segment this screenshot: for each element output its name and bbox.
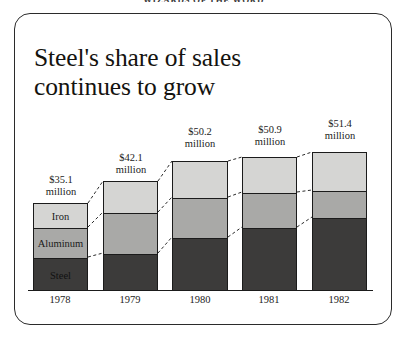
value-amount-1982: $51.4 (328, 118, 352, 129)
x-axis-label-1978: 1978 (32, 294, 88, 305)
bar-1981-segment-iron (242, 158, 297, 193)
bar-1982-segment-steel (312, 218, 367, 291)
bar-1978-segment-aluminum: Aluminum (33, 228, 88, 258)
bar-1979-segment-iron (103, 182, 158, 213)
bar-1978-segment-iron: Iron (33, 204, 88, 228)
bar-1981[interactable] (242, 157, 297, 290)
bar-1980-segment-steel (172, 238, 228, 291)
value-unit-1980: million (185, 138, 215, 149)
bar-1978-segment-steel: Steel (33, 258, 88, 291)
value-amount-1981: $50.9 (258, 124, 282, 135)
bar-1982-segment-iron (312, 153, 367, 191)
bar-1982-segment-aluminum (312, 191, 367, 218)
bar-1982[interactable] (312, 152, 367, 290)
plot-area: Iron Aluminum Steel $35.1 million $42.1 … (0, 0, 407, 341)
x-axis-label-1980: 1980 (172, 294, 228, 305)
bar-1980[interactable] (172, 161, 228, 290)
value-unit-1982: million (325, 130, 355, 141)
bar-1979[interactable] (103, 181, 158, 290)
bar-1980-segment-aluminum (172, 198, 228, 238)
x-axis-label-1981: 1981 (241, 294, 297, 305)
segment-label-steel: Steel (50, 270, 71, 281)
value-amount-1978: $35.1 (49, 174, 73, 185)
bar-1980-segment-iron (172, 162, 228, 198)
x-axis-label-1982: 1982 (311, 294, 367, 305)
bar-1979-segment-aluminum (103, 213, 158, 254)
bar-1978[interactable]: Iron Aluminum Steel (33, 203, 88, 290)
value-label-1979: $42.1 million (102, 152, 160, 176)
value-label-1978: $35.1 million (32, 174, 90, 198)
x-axis-label-1979: 1979 (102, 294, 158, 305)
value-amount-1980: $50.2 (188, 126, 212, 137)
value-label-1982: $51.4 million (311, 118, 369, 142)
value-unit-1979: million (116, 164, 146, 175)
value-label-1980: $50.2 million (171, 126, 229, 150)
x-axis-line (28, 290, 373, 291)
value-unit-1978: million (46, 186, 76, 197)
value-amount-1979: $42.1 (119, 152, 143, 163)
value-unit-1981: million (255, 136, 285, 147)
bar-1981-segment-steel (242, 228, 297, 291)
value-label-1981: $50.9 million (241, 124, 299, 148)
segment-label-iron: Iron (52, 211, 70, 222)
bar-1979-segment-steel (103, 254, 158, 291)
segment-label-aluminum: Aluminum (38, 238, 84, 249)
bar-1981-segment-aluminum (242, 193, 297, 228)
figure-page: WIZARDS OF THE WORD Steel's share of sal… (0, 0, 407, 341)
